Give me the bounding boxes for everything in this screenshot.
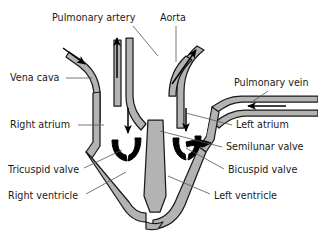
heart-diagram: Pulmonary artery Aorta Vena cava Pulmona… — [0, 0, 318, 238]
label-vena-cava: Vena cava — [10, 72, 59, 83]
heart-diagram-svg: Pulmonary artery Aorta Vena cava Pulmona… — [0, 0, 318, 238]
label-pulmonary-artery: Pulmonary artery — [52, 12, 136, 23]
tricuspid-valve-cusp — [112, 140, 127, 161]
label-bicuspid-valve: Bicuspid valve — [228, 164, 297, 175]
tricuspid-valve-cusp-2 — [128, 138, 141, 161]
heart-body: Pulmonary artery Aorta Vena cava Pulmona… — [7, 12, 318, 230]
label-semilunar-valve: Semilunar valve — [226, 141, 304, 152]
label-right-ventricle: Right ventricle — [8, 190, 78, 201]
label-left-atrium: Left atrium — [236, 119, 289, 130]
label-left-ventricle: Left ventricle — [214, 190, 277, 201]
label-pulmonary-vein: Pulmonary vein — [234, 77, 309, 88]
label-tricuspid-valve: Tricuspid valve — [7, 164, 79, 175]
heart-apex — [146, 222, 163, 230]
leader-pulmonary-artery — [133, 26, 158, 56]
label-aorta: Aorta — [160, 12, 186, 23]
bicuspid-valve-cusp — [173, 138, 186, 160]
septum — [144, 120, 166, 212]
pulmonary-artery-right — [126, 38, 146, 130]
label-right-atrium: Right atrium — [10, 119, 70, 130]
